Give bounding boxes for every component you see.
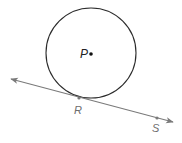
tangent-line-rs xyxy=(11,79,173,122)
label-r: R xyxy=(74,104,82,116)
tangent-circle-diagram: P R S xyxy=(0,0,182,143)
label-s: S xyxy=(152,122,160,134)
center-point-p xyxy=(89,52,93,56)
label-p: P xyxy=(80,47,88,61)
point-s xyxy=(155,116,158,119)
point-r xyxy=(77,96,80,99)
